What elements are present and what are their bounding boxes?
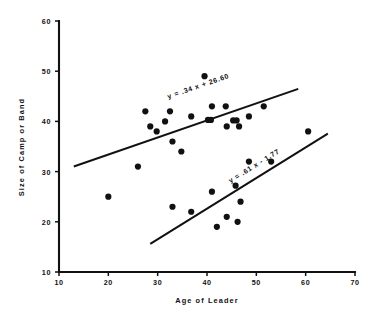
axis-spine — [59, 21, 355, 272]
data-point — [234, 219, 240, 225]
y-tick-label-40: 40 — [42, 117, 51, 126]
data-point — [233, 183, 239, 189]
data-point — [188, 209, 194, 215]
x-axis-label: Age of Leader — [175, 296, 239, 305]
data-point — [135, 163, 141, 169]
data-point — [261, 103, 267, 109]
x-tick-label-30: 30 — [153, 278, 162, 287]
plot-canvas: 10203040506070102030405060 y = .34 x + 2… — [0, 0, 377, 317]
regression-lines — [74, 89, 328, 244]
scatter-plot-figure: 10203040506070102030405060 y = .34 x + 2… — [0, 0, 377, 317]
data-point — [209, 189, 215, 195]
data-point — [305, 128, 311, 134]
data-point — [237, 199, 243, 205]
data-point — [236, 123, 242, 129]
axis-ticks — [55, 21, 355, 276]
y-tick-label-50: 50 — [42, 67, 51, 76]
data-point — [188, 113, 194, 119]
data-point — [169, 204, 175, 210]
axis-tick-labels: 10203040506070102030405060 — [42, 17, 360, 287]
x-tick-label-50: 50 — [252, 278, 261, 287]
x-tick-label-60: 60 — [301, 278, 310, 287]
axes — [59, 21, 355, 272]
data-point — [154, 128, 160, 134]
y-axis-label: Size of Camp or Band — [17, 98, 26, 196]
x-tick-label-40: 40 — [202, 278, 211, 287]
data-point — [142, 108, 148, 114]
x-tick-label-20: 20 — [104, 278, 113, 287]
x-tick-label-10: 10 — [54, 278, 63, 287]
data-point — [208, 117, 214, 123]
y-tick-label-10: 10 — [42, 268, 51, 277]
data-point — [105, 194, 111, 200]
data-point — [162, 118, 168, 124]
data-point — [214, 224, 220, 230]
lower-regression — [150, 134, 328, 244]
data-point — [169, 138, 175, 144]
data-point — [246, 113, 252, 119]
data-point — [223, 103, 229, 109]
data-point — [224, 123, 230, 129]
y-tick-label-20: 20 — [42, 218, 51, 227]
y-tick-label-60: 60 — [42, 17, 51, 26]
data-point — [178, 148, 184, 154]
data-point — [209, 103, 215, 109]
data-point — [224, 214, 230, 220]
data-point — [147, 123, 153, 129]
upper-regression-equation-label: y = .34 x + 26.60 — [166, 72, 230, 101]
y-tick-label-30: 30 — [42, 168, 51, 177]
data-point — [167, 108, 173, 114]
x-tick-label-70: 70 — [350, 278, 359, 287]
data-point — [234, 117, 240, 123]
data-points — [105, 73, 311, 230]
